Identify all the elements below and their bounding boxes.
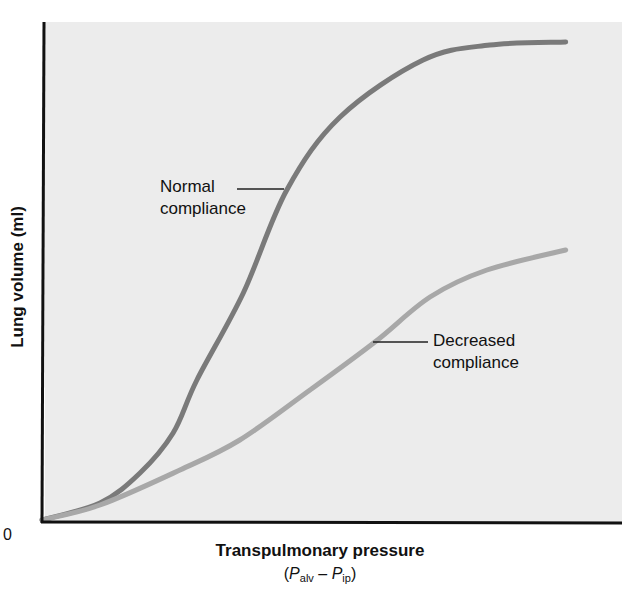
x-axis-sublabel: (Palv – Pip) (284, 565, 356, 584)
normal-label-line2: compliance (160, 198, 246, 220)
y-axis (42, 22, 44, 523)
normal-compliance-label: Normal compliance (160, 176, 246, 220)
normal-label-line1: Normal (160, 176, 246, 198)
chart-plot-area (0, 0, 629, 591)
decreased-label-line2: compliance (433, 352, 519, 374)
x-axis (41, 522, 622, 523)
origin-label: 0 (3, 526, 12, 544)
x-axis-label: Transpulmonary pressure (216, 541, 425, 561)
decreased-compliance-label: Decreased compliance (433, 330, 519, 374)
y-axis-label: Lung volume (ml) (8, 206, 28, 348)
plot-background (45, 22, 622, 522)
decreased-label-line1: Decreased (433, 330, 519, 352)
